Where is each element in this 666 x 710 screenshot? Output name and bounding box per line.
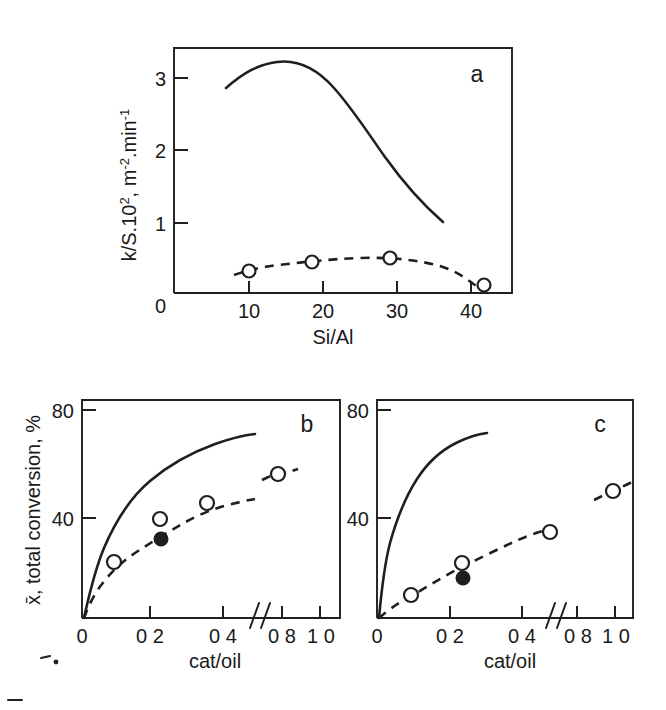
panel-a-xlabel-30: 30 [386, 300, 408, 322]
panel-a-solid-curve [226, 62, 443, 222]
panel-c-datapoint [543, 525, 557, 539]
stray-mark [54, 660, 59, 665]
panel-c-datapoint [606, 484, 620, 498]
panel-b-xaxis-title: cat/oil [189, 650, 241, 672]
panel-b-datapoint [107, 555, 121, 569]
panel-c-xlabel-10: 1 0 [602, 625, 630, 647]
panel-c-xlabel-08: 0 8 [564, 625, 592, 647]
panel-a-letter: a [471, 61, 484, 87]
panel-a: 3 2 1 0 10 20 30 40 Si/Al k/S.102, m-2.m… [117, 48, 512, 348]
panel-b-xlabel-0: 0 [76, 625, 87, 647]
figure-root: 3 2 1 0 10 20 30 40 Si/Al k/S.102, m-2.m… [0, 0, 666, 710]
panel-c-xlabel-0: 0 [371, 625, 382, 647]
panel-c-ylabel-40: 40 [347, 508, 369, 530]
panel-b: 80 40 0 0 2 0 4 0 8 1 0 cat/oil x̄, tota… [22, 400, 340, 672]
panel-c-datapoint-filled [457, 572, 470, 585]
panel-a-ylabel-2: 2 [155, 140, 166, 162]
panel-a-yaxis-title-exp3: -1 [117, 109, 132, 121]
panel-b-ylabel-40: 40 [52, 508, 74, 530]
panel-a-dashed-curve [234, 258, 476, 286]
panel-c-xlabel-04: 0 4 [508, 625, 536, 647]
panel-b-axis-break-icon [250, 603, 259, 628]
panel-c-solid-curve [379, 433, 487, 618]
panel-b-yaxis-title: x̄, total conversion, % [22, 415, 44, 605]
panel-a-datapoint [306, 256, 319, 269]
panel-b-solid-curve [84, 434, 255, 618]
panel-a-yaxis-title-main: k/S.10 [118, 205, 140, 262]
panel-a-ylabel-0: 0 [155, 295, 166, 317]
panel-c-xlabel-02: 0 2 [436, 625, 464, 647]
panel-a-datapoint [384, 252, 397, 265]
panel-a-xlabel-40: 40 [460, 300, 482, 322]
panel-b-letter: b [301, 411, 314, 437]
svg-text:k/S.102, m-2.min-1: k/S.102, m-2.min-1 [117, 109, 140, 262]
panel-b-ylabel-80: 80 [52, 400, 74, 422]
panel-a-yaxis-title: k/S.102, m-2.min-1 [117, 109, 140, 262]
panel-b-xlabel-02: 0 2 [136, 625, 164, 647]
panel-c: 80 40 0 0 2 0 4 0 8 1 0 cat/oil c [347, 400, 633, 672]
panel-b-datapoint [200, 496, 214, 510]
panel-a-frame [174, 48, 512, 293]
panel-a-xlabel-10: 10 [238, 300, 260, 322]
panel-c-datapoint [455, 556, 469, 570]
figure-canvas: 3 2 1 0 10 20 30 40 Si/Al k/S.102, m-2.m… [0, 0, 666, 710]
panel-c-axis-break-icon [546, 603, 555, 628]
panel-c-letter: c [594, 411, 606, 437]
panel-c-ylabel-80: 80 [347, 400, 369, 422]
panel-b-xlabel-08: 0 8 [268, 625, 296, 647]
panel-c-datapoint [404, 588, 418, 602]
panel-a-xlabel-20: 20 [312, 300, 334, 322]
panel-c-xaxis-title: cat/oil [484, 650, 536, 672]
panel-a-datapoint [478, 279, 491, 292]
panel-b-xlabel-10: 1 0 [307, 625, 335, 647]
panel-a-yaxis-title-rest2: .min [118, 120, 140, 158]
panel-b-xlabel-04: 0 4 [209, 625, 237, 647]
panel-a-yaxis-title-exp: 2 [117, 197, 132, 204]
panel-b-datapoint-filled [155, 533, 168, 546]
panel-a-yaxis-title-exp2: -2 [117, 158, 132, 170]
panel-b-datapoint [271, 467, 285, 481]
panel-a-xaxis-title: Si/Al [312, 326, 353, 348]
panel-b-datapoint [153, 512, 167, 526]
stray-mark [41, 656, 50, 658]
panel-a-ylabel-1: 1 [155, 213, 166, 235]
panel-a-ylabel-3: 3 [155, 68, 166, 90]
panel-a-datapoint [243, 265, 256, 278]
panel-a-yaxis-title-rest: , m [118, 170, 140, 198]
